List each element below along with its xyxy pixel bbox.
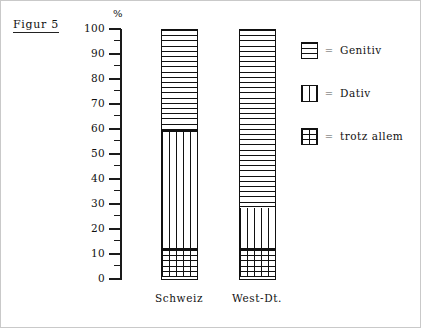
y-tick-label-60: 60 xyxy=(71,123,105,133)
y-tick-minor-55 xyxy=(114,140,121,141)
legend-equals-dativ: = xyxy=(318,88,340,99)
bar-caption-west-dt: West-Dt. xyxy=(202,293,312,304)
y-tick-10 xyxy=(109,253,121,255)
bar-west-dt-segment-trotz-allem xyxy=(240,250,275,277)
bar-schweiz xyxy=(161,29,198,280)
y-tick-label-70: 70 xyxy=(71,98,105,108)
figure-container: Figur 5 % 100 90 80 70 60 50 40 30 20 xyxy=(0,0,421,328)
y-tick-100 xyxy=(109,28,121,30)
legend-item-dativ: = Dativ xyxy=(301,84,371,102)
y-tick-20 xyxy=(109,228,121,230)
y-tick-label-10: 10 xyxy=(71,248,105,258)
y-tick-minor-25 xyxy=(114,215,121,216)
legend-equals-trotz-allem: = xyxy=(318,131,340,142)
y-tick-label-30: 30 xyxy=(71,198,105,208)
y-tick-label-50: 50 xyxy=(71,148,105,158)
y-tick-minor-15 xyxy=(114,240,121,241)
legend-equals-genitiv: = xyxy=(318,45,340,56)
y-tick-minor-45 xyxy=(114,165,121,166)
y-tick-label-80: 80 xyxy=(71,73,105,83)
bar-west-dt-segment-dativ xyxy=(240,208,275,249)
y-tick-minor-35 xyxy=(114,190,121,191)
y-tick-40 xyxy=(109,178,121,180)
y-tick-50 xyxy=(109,153,121,155)
legend-item-trotz-allem: = trotz allem xyxy=(301,127,403,145)
y-axis-unit-label: % xyxy=(113,9,123,19)
y-tick-minor-65 xyxy=(114,115,121,116)
y-tick-minor-75 xyxy=(114,90,121,91)
legend-swatch-crosshatch-icon xyxy=(301,128,318,145)
bar-schweiz-segment-trotz-allem xyxy=(162,250,197,277)
legend-swatch-vertical-lines-icon xyxy=(301,85,318,102)
legend-swatch-horizontal-lines-icon xyxy=(301,42,318,59)
y-tick-90 xyxy=(109,53,121,55)
y-tick-label-20: 20 xyxy=(71,223,105,233)
y-tick-30 xyxy=(109,203,121,205)
y-tick-label-40: 40 xyxy=(71,173,105,183)
legend-label-genitiv: Genitiv xyxy=(340,44,382,56)
bar-schweiz-segment-dativ xyxy=(162,132,197,248)
bar-west-dt-segment-genitiv xyxy=(240,30,275,206)
y-tick-70 xyxy=(109,103,121,105)
bar-schweiz-segment-genitiv xyxy=(162,30,197,130)
y-tick-minor-95 xyxy=(114,40,121,41)
legend-label-dativ: Dativ xyxy=(340,87,371,99)
y-tick-0 xyxy=(109,278,121,280)
y-tick-60 xyxy=(109,128,121,130)
y-tick-minor-85 xyxy=(114,65,121,66)
y-tick-label-90: 90 xyxy=(71,48,105,58)
y-tick-label-0: 0 xyxy=(71,273,105,283)
legend-item-genitiv: = Genitiv xyxy=(301,41,382,59)
y-tick-label-100: 100 xyxy=(71,23,105,33)
legend-label-trotz-allem: trotz allem xyxy=(340,130,403,142)
bar-west-dt xyxy=(239,29,276,280)
y-tick-minor-5 xyxy=(114,265,121,266)
y-tick-80 xyxy=(109,78,121,80)
